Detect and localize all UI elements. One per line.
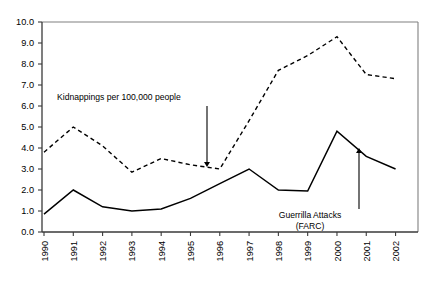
y-axis-tick-label: 7.0 (21, 80, 34, 90)
y-axis-tick-label: 6.0 (21, 101, 34, 111)
y-axis-tick-label: 2.0 (21, 185, 34, 195)
y-axis-tick-label: 0.0 (21, 227, 34, 237)
series-line-guerrilla-attacks (44, 131, 396, 214)
x-axis-tick-label: 1993 (127, 241, 137, 261)
x-axis-tick-label: 1998 (274, 241, 284, 261)
plot-frame (42, 22, 418, 232)
x-axis-tick-label: 2000 (333, 241, 343, 261)
annotation-kidnappings-arrow-head (204, 162, 210, 167)
y-axis-tick-label: 3.0 (21, 164, 34, 174)
y-axis-tick-label: 10.0 (16, 17, 34, 27)
y-axis-tick-label: 4.0 (21, 143, 34, 153)
annotation-guerrilla-attacks: Guerrilla Attacks (FARC) (279, 148, 362, 231)
series-line-kidnappings (44, 37, 396, 172)
x-axis-tick-label: 1995 (186, 241, 196, 261)
x-axis-tick-label: 1992 (98, 241, 108, 261)
x-axis-tick-label: 2002 (391, 241, 401, 261)
x-axis-tick-labels: 1990199119921993199419951996199719981999… (40, 241, 402, 261)
x-axis-tick-label: 1996 (215, 241, 225, 261)
x-axis-tick-label: 1991 (69, 241, 79, 261)
y-axis-tick-label: 8.0 (21, 59, 34, 69)
annotation-guerrilla-label-line2: (FARC) (296, 221, 325, 231)
x-axis-tick-label: 1994 (157, 241, 167, 261)
y-axis-tick-label: 5.0 (21, 122, 34, 132)
x-axis-tick-label: 1999 (303, 241, 313, 261)
x-axis-tick-label: 2001 (362, 241, 372, 261)
annotation-kidnappings: Kidnappings per 100,000 people (57, 92, 210, 167)
x-axis-tick-label: 1990 (40, 241, 50, 261)
annotation-guerrilla-label-line1: Guerrilla Attacks (279, 210, 342, 220)
y-axis-tick-label: 9.0 (21, 38, 34, 48)
annotation-kidnappings-label: Kidnappings per 100,000 people (57, 92, 181, 102)
chart-container: 10.09.08.07.06.05.04.03.02.01.00.0 19901… (0, 0, 440, 287)
line-chart: 10.09.08.07.06.05.04.03.02.01.00.0 19901… (0, 0, 440, 287)
x-axis-tick-label: 1997 (245, 241, 255, 261)
y-axis-tick-labels: 10.09.08.07.06.05.04.03.02.01.00.0 (16, 17, 34, 237)
y-axis-tick-label: 1.0 (21, 206, 34, 216)
